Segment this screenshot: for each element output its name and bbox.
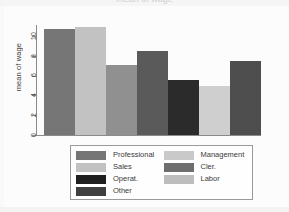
legend-column-right: ManagementCler.Labor. (160, 150, 248, 196)
legend-item[interactable]: Operat. (76, 174, 160, 184)
legend-item[interactable]: Sales (76, 162, 160, 172)
legend-item-label: Other (113, 187, 132, 195)
plot-area: 1086420 (36, 22, 261, 135)
legend-item[interactable]: Cler. (164, 162, 248, 172)
y-tick-label-text: 2 (30, 113, 38, 117)
y-axis-label-text: mean of wage (14, 43, 23, 91)
chart-title-clipped: mean of wage (0, 0, 289, 9)
y-tick-label-text: 8 (30, 54, 38, 58)
bar (199, 86, 230, 135)
legend-item[interactable]: Other (76, 186, 160, 196)
legend-item-label: Cler. (201, 163, 216, 171)
y-tick-label-text: 6 (30, 73, 38, 77)
legend-swatch (76, 163, 106, 172)
legend-spacer: . (164, 186, 248, 196)
y-axis-line (36, 25, 37, 135)
bar (230, 61, 261, 135)
legend-column-left: ProfessionalSalesOperat.Other (76, 150, 160, 196)
legend-item-label: Sales (113, 163, 132, 171)
legend-swatch (76, 151, 106, 160)
y-tick-label-text: 4 (30, 93, 38, 97)
bar (75, 27, 106, 135)
x-axis-baseline (33, 135, 261, 136)
y-tick-label-text: 0 (30, 133, 38, 137)
legend-swatch (164, 175, 194, 184)
legend-box: ProfessionalSalesOperat.Other Management… (70, 145, 253, 200)
legend-swatch (76, 187, 106, 196)
legend-swatch (164, 163, 194, 172)
legend-item-label: Labor (201, 175, 220, 183)
figure-canvas: mean of wage mean of wage 1086420 Profes… (0, 0, 289, 212)
legend-item[interactable]: Professional (76, 150, 160, 160)
legend-swatch (164, 151, 194, 160)
legend-content: ProfessionalSalesOperat.Other Management… (71, 146, 252, 199)
y-axis-label: mean of wage (13, 0, 23, 135)
bar (168, 80, 199, 136)
legend-item[interactable]: Management (164, 150, 248, 160)
legend-item-label: Management (201, 151, 245, 159)
y-tick-label-text: 10 (30, 32, 38, 40)
legend-swatch (76, 175, 106, 184)
chart-title-text: mean of wage (0, 0, 289, 4)
legend-item-label: Professional (113, 151, 154, 159)
legend-item[interactable]: Labor (164, 174, 248, 184)
bar (137, 51, 168, 135)
bar (106, 65, 137, 135)
bar (44, 29, 75, 135)
legend-item-label: Operat. (113, 175, 138, 183)
